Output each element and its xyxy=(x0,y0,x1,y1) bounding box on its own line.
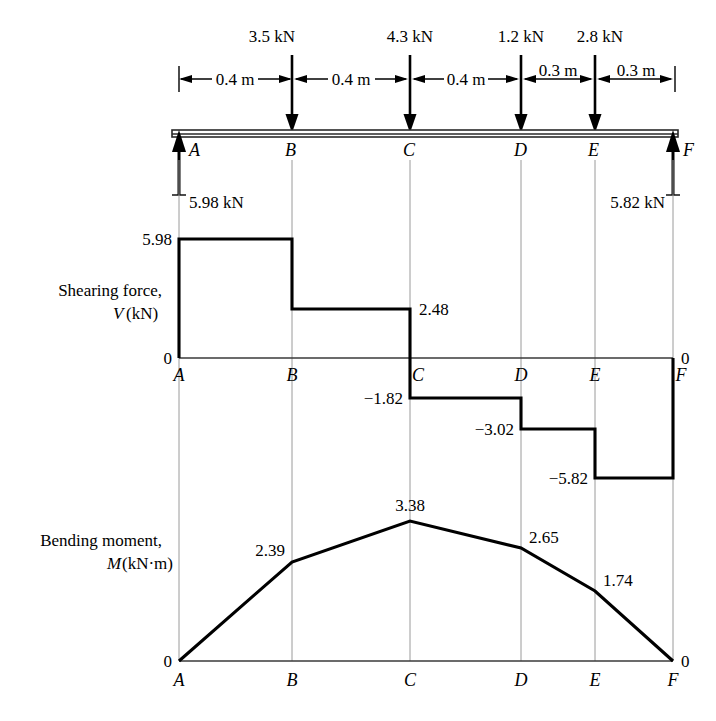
shear-station-f: F xyxy=(675,365,688,385)
beam-member xyxy=(172,130,678,137)
moment-station-f: F xyxy=(667,670,680,690)
shear-station-a: A xyxy=(173,365,186,385)
reaction-label-f: 5.82 kN xyxy=(610,193,665,212)
shear-axis-label-line1: Shearing force, xyxy=(58,281,162,300)
shear-station-c: C xyxy=(412,365,425,385)
load-label-d: 1.2 kN xyxy=(498,27,544,46)
beam-station-c: C xyxy=(403,140,416,160)
shear-axis-symbol: V xyxy=(113,304,126,323)
load-label-c: 4.3 kN xyxy=(387,27,433,46)
moment-zero-label-right: 0 xyxy=(681,652,690,671)
dimension-de: 0.3 m xyxy=(523,61,593,83)
moment-value-label-d: 2.65 xyxy=(529,528,559,547)
shear-value-label-cd: −1.82 xyxy=(364,389,403,408)
diagram-canvas: 3.5 kN 4.3 kN 1.2 kN 2.8 kN xyxy=(0,0,716,721)
beam-diagram-figure: 3.5 kN 4.3 kN 1.2 kN 2.8 kN xyxy=(0,0,716,721)
beam-station-b: B xyxy=(285,140,296,160)
dimension-ef: 0.3 m xyxy=(597,61,673,83)
moment-axis-symbol: M xyxy=(106,554,122,573)
dimension-ab: 0.4 m xyxy=(179,70,292,89)
bending-moment-curve xyxy=(179,521,673,661)
dimension-label-ab: 0.4 m xyxy=(216,70,255,89)
dimension-label-cd: 0.4 m xyxy=(447,70,486,89)
shear-value-label-bc: 2.48 xyxy=(419,300,449,319)
moment-axis-units: (kN·m) xyxy=(122,554,173,573)
beam-station-a: A xyxy=(188,140,201,160)
moment-station-d: D xyxy=(514,670,528,690)
shear-zero-label-left: 0 xyxy=(164,349,173,368)
dimension-label-ef: 0.3 m xyxy=(617,61,656,80)
dimension-bc: 0.4 m xyxy=(294,70,408,89)
shear-value-label-ab: 5.98 xyxy=(142,230,172,249)
moment-station-b: B xyxy=(287,670,298,690)
reaction-label-a: 5.98 kN xyxy=(189,193,244,212)
shear-station-b: B xyxy=(287,365,298,385)
dimension-label-de: 0.3 m xyxy=(539,61,578,80)
moment-station-e: E xyxy=(589,670,601,690)
load-label-e: 2.8 kN xyxy=(577,27,623,46)
moment-value-label-b: 2.39 xyxy=(255,541,285,560)
shear-value-label-ef: −5.82 xyxy=(549,469,588,488)
beam-station-e: E xyxy=(587,140,599,160)
beam-station-f: F xyxy=(682,140,695,160)
load-label-b: 3.5 kN xyxy=(249,27,295,46)
shear-value-label-de: −3.02 xyxy=(475,420,514,439)
moment-value-label-e: 1.74 xyxy=(603,571,633,590)
dimension-cd: 0.4 m xyxy=(412,70,519,89)
moment-station-c: C xyxy=(404,670,417,690)
shear-station-d: D xyxy=(514,365,528,385)
moment-station-a: A xyxy=(173,670,186,690)
moment-axis-label-line1: Bending moment, xyxy=(40,531,162,550)
shear-axis-units: (kN) xyxy=(126,304,158,323)
dimension-label-bc: 0.4 m xyxy=(332,70,371,89)
beam-station-d: D xyxy=(513,140,527,160)
moment-value-label-c: 3.38 xyxy=(395,496,425,515)
station-gridlines xyxy=(179,160,673,661)
shear-station-e: E xyxy=(589,365,601,385)
moment-zero-label-left: 0 xyxy=(164,652,173,671)
